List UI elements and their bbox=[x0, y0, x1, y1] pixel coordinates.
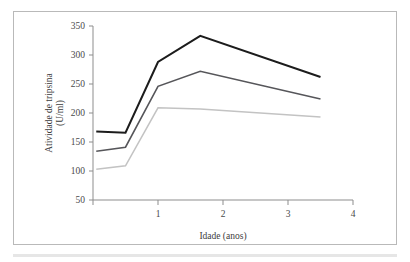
x-tick-label-1: 1 bbox=[156, 209, 161, 219]
x-tick-label-3: 3 bbox=[286, 209, 291, 219]
y-tick-label-350: 350 bbox=[71, 21, 86, 31]
series-line-serie-intermediaria bbox=[96, 71, 320, 151]
y-axis: 50100150200250300350 bbox=[71, 21, 93, 205]
y-tick-label-250: 250 bbox=[71, 79, 86, 89]
x-tick-label-4: 4 bbox=[351, 209, 356, 219]
line-chart: 50100150200250300350 1234 Idade (anos) A… bbox=[0, 0, 410, 262]
y-tick-label-300: 300 bbox=[71, 50, 86, 60]
x-tick-label-2: 2 bbox=[221, 209, 226, 219]
x-axis: 1234 bbox=[93, 200, 356, 219]
y-tick-label-150: 150 bbox=[71, 137, 86, 147]
x-axis-title: Idade (anos) bbox=[199, 231, 246, 242]
y-tick-label-50: 50 bbox=[76, 195, 86, 205]
x-axis-tick-labels: 1234 bbox=[156, 209, 356, 219]
y-tick-label-100: 100 bbox=[71, 166, 86, 176]
y-axis-title-line1: Atividade de tripsina bbox=[44, 72, 54, 152]
figure-root: 50100150200250300350 1234 Idade (anos) A… bbox=[0, 0, 410, 262]
x-axis-ticks bbox=[93, 200, 353, 205]
y-axis-tick-labels: 50100150200250300350 bbox=[71, 21, 86, 205]
y-axis-ticks bbox=[89, 26, 93, 200]
y-tick-label-200: 200 bbox=[71, 108, 86, 118]
series-line-serie-superior bbox=[96, 36, 320, 133]
data-series-group bbox=[96, 36, 320, 169]
y-axis-title-line2: (U/ml) bbox=[55, 100, 66, 126]
